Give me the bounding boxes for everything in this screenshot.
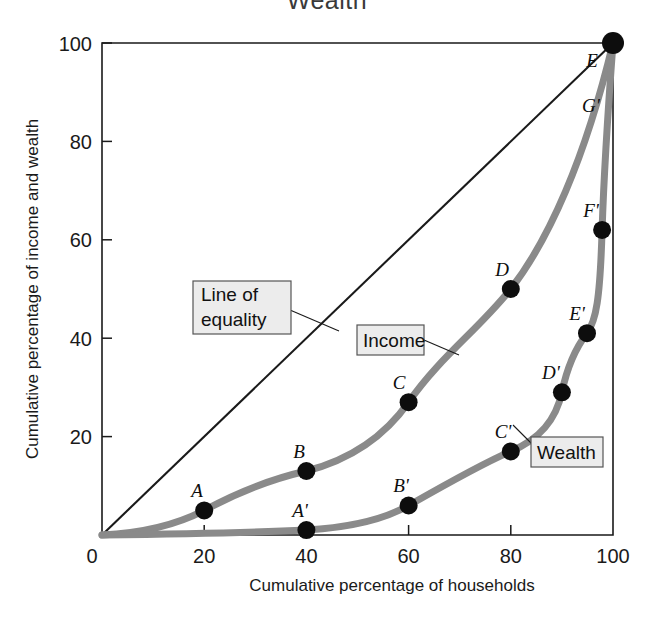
data-point-B-prime — [400, 497, 418, 515]
wealth-callout-label: Wealth — [537, 442, 596, 463]
x-tick-label-80: 80 — [500, 545, 522, 567]
point-label-D-prime: D' — [541, 362, 561, 383]
point-label-B: B — [293, 441, 305, 462]
income-callout-label: Income — [363, 330, 425, 351]
x-tick-label-100: 100 — [596, 545, 629, 567]
point-label-A: A — [189, 480, 203, 501]
lorenz-chart-svg: 100 80 60 40 20 0 20 40 60 80 100 Cumula… — [0, 0, 654, 619]
y-tick-label-20: 20 — [70, 426, 92, 448]
y-tick-label-100: 100 — [59, 33, 92, 55]
data-point-D — [502, 280, 520, 298]
data-point-A — [195, 501, 213, 519]
y-axis-title: Cumulative percentage of income and weal… — [23, 119, 42, 459]
point-label-E-prime: E' — [568, 303, 586, 324]
point-label-A-prime: A' — [290, 500, 309, 521]
data-point-C-prime — [502, 442, 520, 460]
data-point-C — [400, 393, 418, 411]
equality-callout-line2: equality — [201, 309, 267, 330]
point-label-G-prime: G' — [582, 95, 601, 116]
x-axis-title: Cumulative percentage of households — [249, 576, 534, 595]
point-label-C-prime: C' — [495, 421, 513, 442]
data-point-E — [602, 32, 624, 54]
y-axis-ticks — [102, 43, 112, 437]
data-point-F-prime — [593, 221, 611, 239]
data-point-B — [297, 462, 315, 480]
y-tick-label-0: 0 — [86, 545, 97, 567]
point-label-C: C — [393, 372, 406, 393]
lorenz-curve-figure: Wealth 100 80 60 40 20 0 20 40 60 80 10 — [0, 0, 654, 619]
point-label-E: E — [585, 50, 598, 71]
x-tick-label-40: 40 — [295, 545, 317, 567]
data-point-E-prime — [578, 324, 596, 342]
y-tick-label-80: 80 — [70, 131, 92, 153]
point-label-B-prime: B' — [393, 475, 410, 496]
x-tick-label-20: 20 — [193, 545, 215, 567]
equality-callout-line1: Line of — [201, 284, 259, 305]
point-label-D: D — [494, 259, 509, 280]
y-tick-label-60: 60 — [70, 229, 92, 251]
y-tick-label-40: 40 — [70, 328, 92, 350]
data-point-D-prime — [553, 383, 571, 401]
point-label-F-prime: F' — [582, 200, 600, 221]
data-point-A-prime — [297, 521, 315, 539]
x-tick-label-60: 60 — [397, 545, 419, 567]
